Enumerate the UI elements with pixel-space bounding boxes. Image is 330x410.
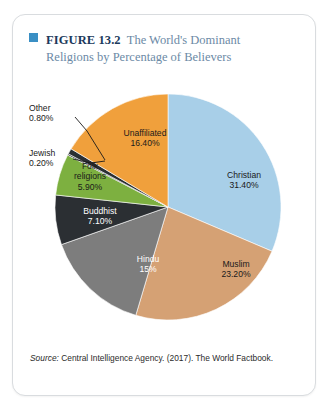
figure-source-prefix: Source: [30, 353, 59, 363]
figure-title-line2: Religions by Percentage of Believers [46, 49, 301, 66]
slice-label-unaffiliated-name: Unaffiliated [105, 128, 185, 138]
slice-label-muslim: Muslim 23.20% [201, 259, 271, 280]
slice-label-jewish-value: 0.20% [29, 158, 83, 168]
figure-header: FIGURE 13.2 The World's Dominant Religio… [29, 30, 301, 66]
figure-source: Source: Central Intelligence Agency. (20… [30, 352, 292, 365]
slice-label-buddhist: Buddhist 7.10% [69, 206, 131, 227]
slice-label-folk-religions-name2: religions [61, 171, 119, 181]
slice-label-christian-name: Christian [209, 170, 279, 180]
slice-label-hindu: Hindu 15% [120, 254, 176, 275]
slice-label-muslim-value: 23.20% [201, 269, 271, 279]
slice-label-unaffiliated: Unaffiliated 16.40% [105, 128, 185, 149]
pie-chart: Christian 31.40% Muslim 23.20% Hindu 15%… [13, 87, 315, 337]
figure-card: FIGURE 13.2 The World's Dominant Religio… [12, 14, 316, 396]
slice-label-christian: Christian 31.40% [209, 170, 279, 191]
slice-label-jewish-name: Jewish [29, 148, 83, 158]
slice-label-christian-value: 31.40% [209, 180, 279, 190]
slice-label-other-name: Other [29, 103, 81, 113]
slice-label-hindu-name: Hindu [120, 254, 176, 264]
slice-label-jewish: Jewish 0.20% [29, 148, 83, 169]
figure-number: FIGURE 13.2 [46, 33, 121, 47]
slice-label-buddhist-name: Buddhist [69, 206, 131, 216]
slice-label-other: Other 0.80% [29, 103, 81, 124]
slice-label-buddhist-value: 7.10% [69, 216, 131, 226]
slice-label-muslim-name: Muslim [201, 259, 271, 269]
slice-label-other-value: 0.80% [29, 113, 81, 123]
pie-chart-svg [13, 87, 315, 337]
slice-label-folk-religions-value: 5.90% [61, 182, 119, 192]
slice-label-unaffiliated-value: 16.40% [105, 138, 185, 148]
slice-label-hindu-value: 15% [120, 264, 176, 274]
figure-source-text: Central Intelligence Agency. (2017). The… [59, 353, 273, 363]
figure-title-line1-text: The World's Dominant [127, 33, 241, 47]
figure-bullet-icon [29, 33, 38, 42]
